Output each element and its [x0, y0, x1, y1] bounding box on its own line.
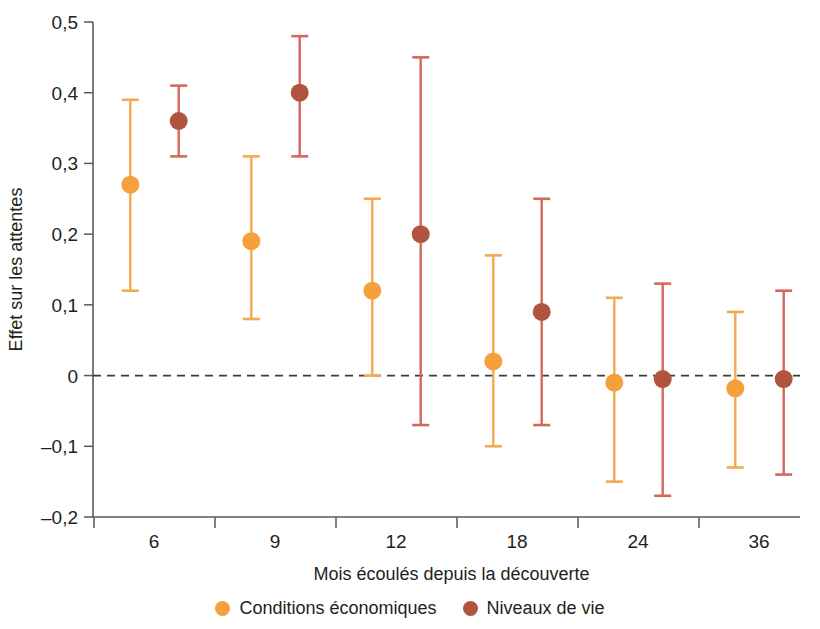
y-tick-label-0: 0,5: [52, 12, 78, 33]
x-tick-label-0: 6: [149, 531, 160, 552]
data-point-s1-2: [412, 225, 430, 243]
data-point-s0-4: [605, 374, 623, 392]
legend-item-niveaux-de-vie: Niveaux de vie: [463, 598, 605, 619]
data-point-s1-4: [654, 370, 672, 388]
y-tick-label-4: 0,1: [52, 295, 78, 316]
chart-plot-area: 0,50,40,30,20,10–0,1–0,26912182436Mois é…: [0, 0, 820, 629]
legend-label-series-1: Niveaux de vie: [487, 598, 605, 619]
y-tick-label-1: 0,4: [52, 83, 79, 104]
x-tick-label-4: 24: [627, 531, 649, 552]
x-tick-label-1: 9: [270, 531, 281, 552]
data-point-s0-1: [242, 232, 260, 250]
y-tick-label-3: 0,2: [52, 224, 78, 245]
y-tick-label-7: –0,2: [41, 507, 78, 528]
y-axis-title: Effet sur les attentes: [6, 188, 26, 352]
x-tick-label-5: 36: [748, 531, 769, 552]
data-point-s1-3: [533, 303, 551, 321]
x-axis-title: Mois écoulés depuis la découverte: [313, 564, 589, 584]
legend-item-conditions-economiques: Conditions économiques: [215, 598, 436, 619]
y-tick-label-5: 0: [67, 366, 78, 387]
data-point-s0-3: [484, 352, 502, 370]
data-point-s0-0: [121, 176, 139, 194]
legend-swatch-icon-series-1: [463, 601, 478, 616]
data-point-s1-1: [291, 84, 309, 102]
chart-figure: 0,50,40,30,20,10–0,1–0,26912182436Mois é…: [0, 0, 820, 629]
x-tick-label-2: 12: [385, 531, 406, 552]
legend-swatch-icon-series-0: [215, 601, 230, 616]
y-tick-label-6: –0,1: [41, 436, 78, 457]
y-tick-label-2: 0,3: [52, 153, 78, 174]
chart-legend: Conditions économiques Niveaux de vie: [0, 598, 820, 619]
data-point-s1-0: [170, 112, 188, 130]
x-tick-label-3: 18: [506, 531, 527, 552]
data-point-s0-5: [726, 379, 744, 397]
data-point-s1-5: [775, 370, 793, 388]
data-point-s0-2: [363, 282, 381, 300]
legend-label-series-0: Conditions économiques: [239, 598, 436, 619]
